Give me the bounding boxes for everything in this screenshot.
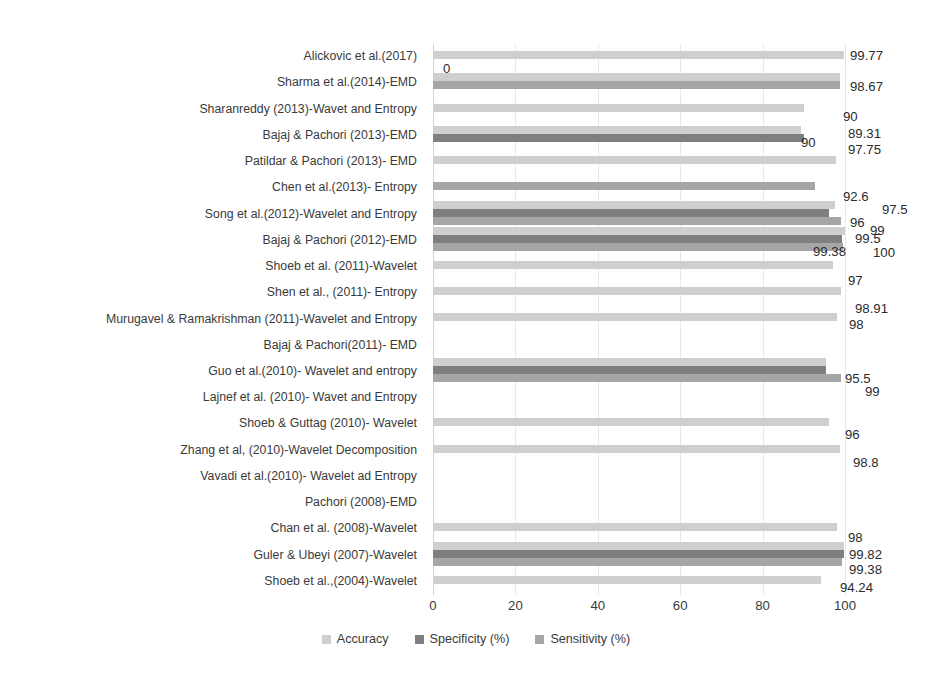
chart-legend: AccuracySpecificity (%)Sensitivity (%) xyxy=(0,632,952,646)
x-tick-label: 80 xyxy=(755,598,770,613)
legend-item[interactable]: Sensitivity (%) xyxy=(535,632,630,646)
data-value-label: 89.31 xyxy=(848,127,881,141)
data-value-label: 96 xyxy=(850,216,865,230)
data-value-label: 99.82 xyxy=(849,548,882,562)
data-value-label: 97 xyxy=(848,274,863,288)
data-value-label: 98.67 xyxy=(850,80,883,94)
data-value-label: 90 xyxy=(843,110,858,124)
x-tick-label: 60 xyxy=(673,598,688,613)
data-value-label: 99.5 xyxy=(855,232,881,246)
legend-swatch-icon xyxy=(322,635,331,644)
data-value-label: 0 xyxy=(443,62,450,76)
data-value-label: 92.6 xyxy=(843,190,869,204)
legend-label: Sensitivity (%) xyxy=(550,632,630,646)
x-axis-tick-labels: 020406080100 xyxy=(433,598,845,618)
legend-label: Accuracy xyxy=(337,632,389,646)
legend-label: Specificity (%) xyxy=(430,632,510,646)
x-tick-label: 0 xyxy=(429,598,436,613)
data-value-label: 98 xyxy=(848,531,863,545)
legend-item[interactable]: Specificity (%) xyxy=(415,632,510,646)
legend-item[interactable]: Accuracy xyxy=(322,632,389,646)
data-value-label: 98.8 xyxy=(853,456,879,470)
x-tick-label: 100 xyxy=(834,598,856,613)
data-value-label: 98.91 xyxy=(855,302,888,316)
data-value-label: 94.24 xyxy=(840,581,873,595)
data-value-label: 96 xyxy=(845,428,860,442)
legend-swatch-icon xyxy=(415,635,424,644)
data-value-label: 97.5 xyxy=(882,203,908,217)
x-tick-label: 20 xyxy=(508,598,523,613)
data-value-label: 97.75 xyxy=(848,143,881,157)
bar-chart: Alickovic et al.(2017)Sharma et al.(2014… xyxy=(0,0,952,675)
data-value-label: 99.38 xyxy=(813,245,846,259)
x-tick-label: 40 xyxy=(590,598,605,613)
legend-swatch-icon xyxy=(535,635,544,644)
value-labels-layer: 99.77098.67909089.3197.7592.697.5969999.… xyxy=(0,0,952,675)
data-value-label: 99.38 xyxy=(849,563,882,577)
data-value-label: 90 xyxy=(801,136,816,150)
data-value-label: 100 xyxy=(873,246,895,260)
data-value-label: 99.77 xyxy=(850,49,883,63)
data-value-label: 98 xyxy=(849,318,864,332)
data-value-label: 99 xyxy=(865,385,880,399)
